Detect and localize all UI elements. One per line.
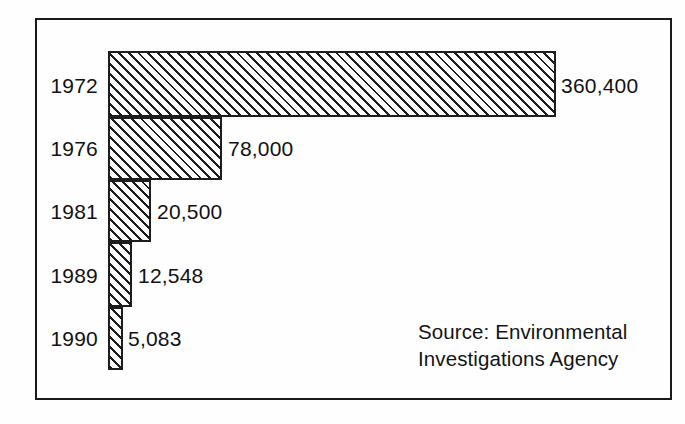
value-label-1990: 5,083 [128,328,182,349]
bar-1989 [108,242,132,307]
category-label-1981: 1981 [44,201,98,222]
category-label-1972: 1972 [44,75,98,96]
bar-1972 [108,51,556,117]
bar-1990 [108,307,123,370]
value-label-1989: 12,548 [138,265,203,286]
chart-page: 1972 1976 1981 1989 1990 360,400 78,000 … [0,0,685,424]
value-label-1981: 20,500 [157,201,222,222]
category-label-1976: 1976 [44,138,98,159]
bar-1981 [108,180,151,242]
source-attribution: Source: Environmental Investigations Age… [418,318,648,372]
category-label-1990: 1990 [44,328,98,349]
category-label-1989: 1989 [44,265,98,286]
plot-area: 1972 1976 1981 1989 1990 360,400 78,000 … [0,0,685,424]
source-line-2: Investigations Agency [418,345,648,372]
source-line-1: Source: Environmental [418,318,648,345]
value-label-1976: 78,000 [228,138,293,159]
bar-1976 [108,117,222,180]
value-label-1972: 360,400 [561,75,638,96]
